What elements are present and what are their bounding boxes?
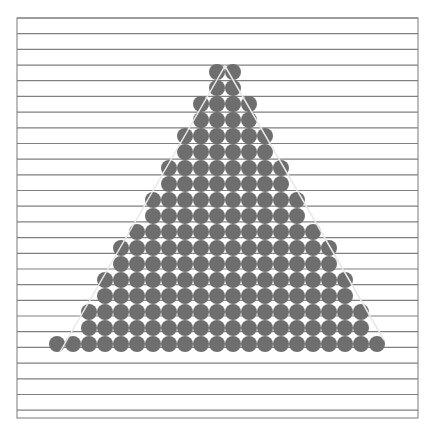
circle: [273, 208, 289, 224]
circle: [225, 96, 241, 112]
circle: [177, 240, 193, 256]
circle: [305, 304, 321, 320]
circle-grid: [49, 64, 385, 352]
circle: [161, 176, 177, 192]
circle: [145, 288, 161, 304]
circle: [225, 304, 241, 320]
circle: [289, 288, 305, 304]
circle: [209, 176, 225, 192]
circle: [353, 336, 369, 352]
circle: [145, 304, 161, 320]
circle: [113, 288, 129, 304]
circle: [113, 240, 129, 256]
circle: [225, 144, 241, 160]
circle: [273, 256, 289, 272]
circle: [113, 256, 129, 272]
circle: [257, 224, 273, 240]
circle: [177, 176, 193, 192]
circle: [113, 336, 129, 352]
circle: [161, 192, 177, 208]
circle: [177, 192, 193, 208]
circle: [241, 240, 257, 256]
circle: [113, 304, 129, 320]
circle: [129, 320, 145, 336]
circle: [321, 256, 337, 272]
circle: [241, 288, 257, 304]
circle: [193, 160, 209, 176]
circle: [177, 304, 193, 320]
circle: [97, 320, 113, 336]
circle: [193, 208, 209, 224]
circle: [257, 160, 273, 176]
circle: [193, 336, 209, 352]
triangle-of-circles-figure: [0, 0, 439, 433]
circle: [145, 336, 161, 352]
circle: [161, 256, 177, 272]
circle: [257, 272, 273, 288]
circle: [193, 256, 209, 272]
circle: [209, 160, 225, 176]
circle: [257, 288, 273, 304]
circle: [273, 192, 289, 208]
circle: [257, 208, 273, 224]
circle: [209, 208, 225, 224]
circle: [129, 336, 145, 352]
circle: [177, 320, 193, 336]
circle: [241, 208, 257, 224]
circle: [225, 128, 241, 144]
circle: [177, 160, 193, 176]
circle: [257, 192, 273, 208]
circle: [81, 320, 97, 336]
circle: [177, 256, 193, 272]
circle: [193, 176, 209, 192]
circle: [225, 240, 241, 256]
circle: [209, 80, 225, 96]
circle: [209, 112, 225, 128]
circle: [353, 320, 369, 336]
circle: [321, 288, 337, 304]
circle: [113, 272, 129, 288]
circle: [257, 176, 273, 192]
circle: [161, 288, 177, 304]
circle: [129, 224, 145, 240]
circle: [225, 320, 241, 336]
circle: [145, 240, 161, 256]
circle: [97, 304, 113, 320]
circle: [129, 288, 145, 304]
circle: [225, 208, 241, 224]
circle: [129, 272, 145, 288]
circle: [225, 272, 241, 288]
circle: [273, 336, 289, 352]
circle: [177, 288, 193, 304]
circle: [353, 304, 369, 320]
circle: [257, 144, 273, 160]
circle: [177, 208, 193, 224]
circle: [209, 224, 225, 240]
circle: [145, 208, 161, 224]
circle: [257, 320, 273, 336]
circle: [241, 224, 257, 240]
circle: [337, 304, 353, 320]
circle: [193, 288, 209, 304]
circle: [193, 128, 209, 144]
circle: [321, 304, 337, 320]
circle: [241, 192, 257, 208]
circle: [305, 336, 321, 352]
circle: [177, 336, 193, 352]
circle: [145, 256, 161, 272]
circle: [225, 160, 241, 176]
circle: [209, 272, 225, 288]
circle: [225, 192, 241, 208]
circle: [321, 320, 337, 336]
circle: [209, 96, 225, 112]
circle: [209, 64, 225, 80]
circle: [241, 128, 257, 144]
circle: [289, 240, 305, 256]
circle: [161, 240, 177, 256]
circle: [129, 256, 145, 272]
circle: [49, 336, 65, 352]
circle: [193, 224, 209, 240]
circle: [321, 336, 337, 352]
circle: [209, 304, 225, 320]
circle: [257, 336, 273, 352]
